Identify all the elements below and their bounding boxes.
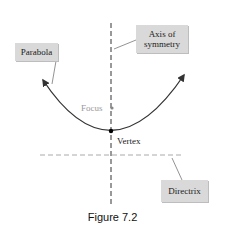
vertex-label: Vertex (117, 136, 141, 146)
axis-of-symmetry-callout: Axis of symmetry (136, 25, 188, 53)
axis-label-line1: Axis of (149, 29, 176, 39)
parabola-leader-line (52, 61, 56, 84)
vertex-point (109, 129, 113, 133)
focus-point (110, 106, 113, 109)
axis-label-line2: symmetry (144, 39, 180, 49)
directrix-callout: Directrix (161, 180, 208, 202)
directrix-label: Directrix (168, 186, 200, 196)
parabola-label: Parabola (21, 47, 53, 57)
axis-leader-line (114, 40, 136, 49)
figure-caption: Figure 7.2 (0, 211, 225, 223)
directrix-leader-line (172, 158, 182, 180)
parabola-callout: Parabola (15, 43, 58, 61)
parabola-curve (43, 75, 184, 130)
focus-label: Focus (81, 103, 103, 113)
